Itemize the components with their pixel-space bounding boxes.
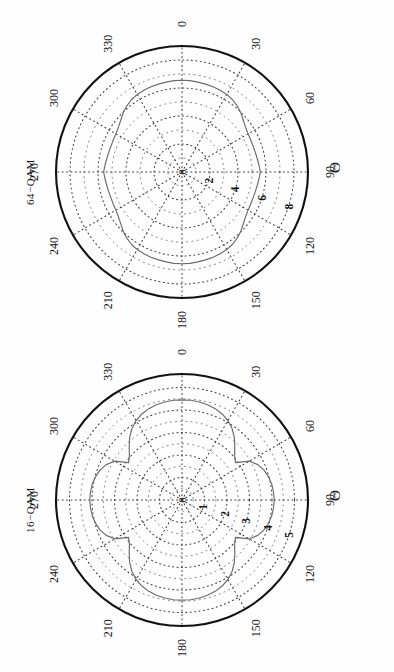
polar-chart-64qam-svg: 030609012015018021024027030033002468	[32, 20, 332, 325]
radial-tick-2: 2	[219, 511, 231, 517]
radial-tick-4: 4	[262, 525, 274, 531]
radial-tick-0: 0	[176, 497, 188, 503]
radial-tick-5: 5	[283, 532, 295, 538]
angle-tick-120: 120	[303, 565, 317, 583]
radial-tick-3: 3	[240, 518, 252, 524]
angle-tick-330: 330	[101, 35, 115, 53]
angle-tick-300: 300	[47, 89, 61, 107]
radial-tick-0: 0	[176, 169, 188, 175]
angle-tick-180: 180	[175, 311, 189, 329]
panel-title-16qam: 16−QAM	[24, 487, 36, 533]
angle-tick-210: 210	[101, 291, 115, 309]
angle-tick-240: 240	[47, 237, 61, 255]
radial-tick-1: 1	[197, 504, 209, 510]
panel-title-64qam: 64−QAM	[24, 159, 36, 205]
polar-plot-16qam: 0306090120150180210240270300330012345	[32, 348, 332, 653]
angle-tick-0: 0	[175, 21, 189, 27]
angle-tick-150: 150	[249, 619, 263, 637]
angle-tick-210: 210	[101, 619, 115, 637]
angle-tick-0: 0	[175, 349, 189, 355]
angle-tick-60: 60	[303, 420, 317, 432]
figure-page: 030609012015018021024027030033002468 64−…	[0, 0, 394, 672]
radial-tick-6: 6	[256, 195, 268, 201]
angle-tick-60: 60	[303, 92, 317, 104]
angle-tick-330: 330	[101, 363, 115, 381]
angle-tick-150: 150	[249, 291, 263, 309]
radial-tick-4: 4	[229, 186, 241, 192]
polar-plot-64qam: 030609012015018021024027030033002468	[32, 20, 332, 325]
angle-tick-120: 120	[303, 237, 317, 255]
angle-tick-300: 300	[47, 417, 61, 435]
angle-tick-30: 30	[249, 38, 263, 50]
angle-tick-180: 180	[175, 639, 189, 657]
theta-symbol-64qam: Θ	[328, 162, 343, 173]
radial-tick-2: 2	[203, 178, 215, 184]
radial-tick-8: 8	[283, 203, 295, 209]
polar-chart-16qam-svg: 0306090120150180210240270300330012345	[32, 348, 332, 653]
angle-tick-240: 240	[47, 565, 61, 583]
theta-symbol-16qam: Θ	[328, 490, 343, 501]
angle-tick-30: 30	[249, 366, 263, 378]
